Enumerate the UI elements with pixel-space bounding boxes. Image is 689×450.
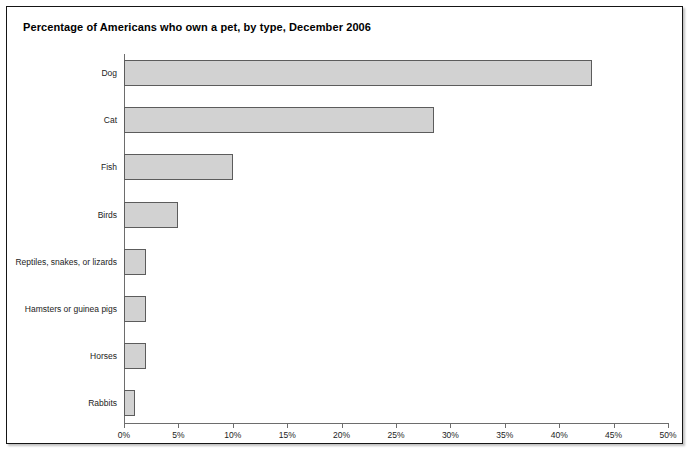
- category-label-wrapper: Hamsters or guinea pigs: [0, 296, 124, 322]
- x-axis-tick-label: 0%: [104, 430, 144, 440]
- x-axis-tick-label: 45%: [594, 430, 634, 440]
- x-axis-tick: [124, 423, 125, 428]
- category-label: Rabbits: [88, 390, 124, 416]
- x-axis-tick-label: 10%: [213, 430, 253, 440]
- x-axis-tick-label: 5%: [158, 430, 198, 440]
- x-axis-tick-label: 50%: [648, 430, 688, 440]
- bar: [124, 107, 434, 133]
- x-axis-tick: [559, 423, 560, 428]
- category-label-wrapper: Fish: [0, 154, 124, 180]
- x-axis-tick: [450, 423, 451, 428]
- category-label-wrapper: Reptiles, snakes, or lizards: [0, 249, 124, 275]
- category-label: Reptiles, snakes, or lizards: [15, 249, 124, 275]
- bar: [124, 390, 135, 416]
- bar: [124, 296, 146, 322]
- category-label-wrapper: Dog: [0, 60, 124, 86]
- category-label-wrapper: Birds: [0, 202, 124, 228]
- bar: [124, 249, 146, 275]
- x-axis-tick-label: 35%: [485, 430, 525, 440]
- x-axis-tick-label: 20%: [322, 430, 362, 440]
- bar: [124, 154, 233, 180]
- category-label: Dog: [101, 60, 124, 86]
- x-axis-tick: [396, 423, 397, 428]
- x-axis-tick-label: 25%: [376, 430, 416, 440]
- x-axis-tick-label: 40%: [539, 430, 579, 440]
- category-label: Birds: [98, 202, 124, 228]
- category-label: Hamsters or guinea pigs: [25, 296, 124, 322]
- bar: [124, 202, 178, 228]
- x-axis-tick: [505, 423, 506, 428]
- x-axis-tick: [614, 423, 615, 428]
- x-axis-tick-label: 30%: [430, 430, 470, 440]
- x-axis-tick: [233, 423, 234, 428]
- x-axis-tick: [342, 423, 343, 428]
- bar: [124, 60, 592, 86]
- x-axis-tick: [287, 423, 288, 428]
- bar: [124, 343, 146, 369]
- chart-figure: Percentage of Americans who own a pet, b…: [0, 0, 689, 450]
- chart-title: Percentage of Americans who own a pet, b…: [23, 21, 371, 33]
- category-label-wrapper: Horses: [0, 343, 124, 369]
- plot-area: DogCatFishBirdsReptiles, snakes, or liza…: [124, 54, 668, 423]
- category-label-wrapper: Cat: [0, 107, 124, 133]
- x-axis-tick: [668, 423, 669, 428]
- category-label: Horses: [90, 343, 124, 369]
- x-axis-tick-label: 15%: [267, 430, 307, 440]
- category-label-wrapper: Rabbits: [0, 390, 124, 416]
- category-label: Fish: [101, 154, 124, 180]
- category-label: Cat: [104, 107, 124, 133]
- x-axis-tick: [178, 423, 179, 428]
